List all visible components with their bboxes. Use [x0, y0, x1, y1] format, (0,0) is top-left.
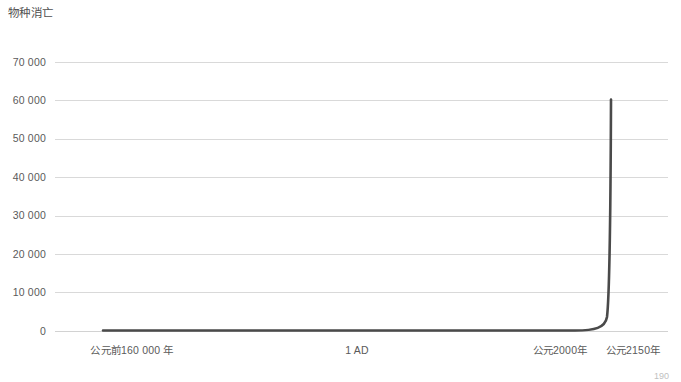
- x-tick-label-1ad: 1 AD: [345, 343, 369, 357]
- y-tick-label-70000: 70 000: [0, 56, 46, 68]
- y-tick-label-0: 0: [0, 325, 46, 337]
- x-axis: 公元前160 000 年 1 AD 公元2000年 公元2150年: [0, 343, 681, 359]
- y-tick-label-20000: 20 000: [0, 248, 46, 260]
- x-tick-label-160000bc: 公元前160 000 年: [90, 343, 173, 357]
- plot-area: [55, 62, 668, 331]
- y-tick-label-40000: 40 000: [0, 171, 46, 183]
- page-number: 190: [654, 371, 669, 382]
- extinction-curve-path: [103, 100, 611, 331]
- x-tick-label-2150ad: 公元2150年: [606, 343, 661, 357]
- y-tick-label-30000: 30 000: [0, 209, 46, 221]
- y-tick-label-60000: 60 000: [0, 94, 46, 106]
- y-axis: 70 000 60 000 50 000 40 000 30 000 20 00…: [0, 0, 46, 378]
- series-line-extinction: [55, 62, 668, 331]
- x-tick-label-2000ad: 公元2000年: [533, 343, 588, 357]
- y-tick-label-10000: 10 000: [0, 286, 46, 298]
- y-tick-label-50000: 50 000: [0, 132, 46, 144]
